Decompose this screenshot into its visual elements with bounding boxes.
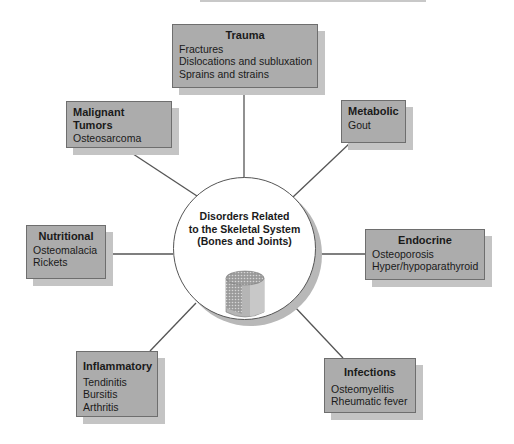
category-box-trauma: Trauma Fractures Dislocations and sublux…: [172, 24, 318, 88]
hub-line-3: (Bones and Joints): [173, 235, 316, 248]
category-item: Osteoporosis: [372, 248, 478, 261]
category-box-nutritional: Nutritional Osteomalacia Rickets: [26, 225, 106, 279]
category-title: Malignant Tumors: [73, 106, 165, 131]
hub-line-1: Disorders Related: [173, 210, 316, 223]
connector-inflammatory: [150, 303, 196, 351]
category-item: Rheumatic fever: [331, 395, 409, 408]
category-box-malignant-tumors: Malignant Tumors Osteosarcoma: [66, 101, 172, 148]
connector-malignant-tumors: [124, 148, 197, 196]
category-item: Fractures: [179, 43, 311, 56]
hub-title: Disorders Related to the Skeletal System…: [173, 210, 316, 248]
connector-infections: [294, 306, 343, 358]
category-title: Nutritional: [33, 230, 99, 243]
category-item: Osteomalacia: [33, 244, 99, 257]
category-title: Infections: [331, 366, 409, 379]
bone-cross-section-icon: [222, 268, 268, 320]
category-title: Metabolic: [348, 105, 399, 118]
category-box-inflammatory: Inflammatory Tendinitis Bursitis Arthrit…: [76, 351, 158, 417]
category-title: Endocrine: [372, 234, 478, 247]
category-item: Bursitis: [83, 388, 151, 401]
category-title: Inflammatory: [83, 360, 151, 373]
category-item: Gout: [348, 119, 399, 132]
category-item: Rickets: [33, 256, 99, 269]
category-item: Tendinitis: [83, 376, 151, 389]
category-title: Trauma: [179, 29, 311, 42]
category-item: Sprains and strains: [179, 68, 311, 81]
connector-metabolic: [293, 143, 350, 197]
category-item: Osteomyelitis: [331, 383, 409, 396]
category-item: Arthritis: [83, 401, 151, 414]
category-item: Dislocations and subluxation: [179, 55, 311, 68]
category-box-metabolic: Metabolic Gout: [341, 100, 406, 143]
category-box-infections: Infections Osteomyelitis Rheumatic fever: [324, 358, 416, 413]
category-box-endocrine: Endocrine Osteoporosis Hyper/hypoparathy…: [365, 229, 485, 280]
category-item: Hyper/hypoparathyroid: [372, 260, 478, 273]
category-item: Osteosarcoma: [73, 132, 165, 145]
hub-line-2: to the Skeletal System: [173, 223, 316, 236]
